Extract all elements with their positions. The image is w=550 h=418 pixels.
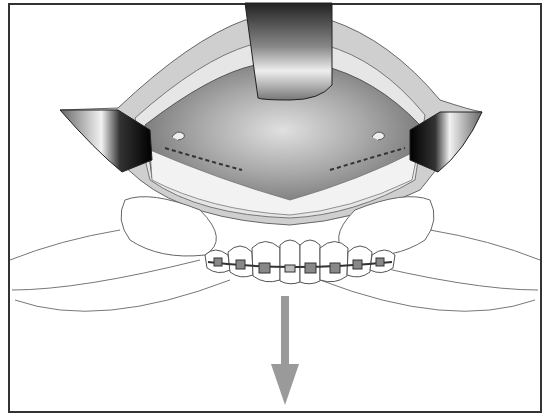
retractor-top — [245, 3, 332, 100]
downward-arrow — [271, 296, 299, 405]
surgical-illustration — [0, 0, 550, 418]
